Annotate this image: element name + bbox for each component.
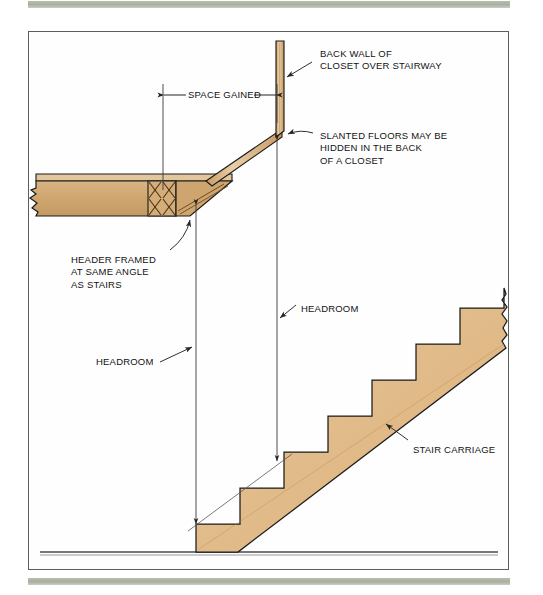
stair-carriage (196, 288, 507, 552)
label-slanted-floors: SLANTED FLOORS MAY BE HIDDEN IN THE BACK… (320, 130, 447, 167)
label-stair-carriage: STAIR CARRIAGE (413, 444, 495, 456)
slanted-closet-floor (206, 129, 283, 186)
leader-back-wall (287, 62, 312, 77)
leader-headroom-upper (280, 305, 296, 318)
diagram-artwork (0, 0, 543, 595)
leader-slanted-floors (288, 131, 313, 134)
leader-header-framed (170, 220, 190, 250)
label-header-framed: HEADER FRAMED AT SAME ANGLE AS STAIRS (71, 254, 156, 291)
label-space-gained: SPACE GAINED (188, 89, 261, 101)
label-headroom-lower: HEADROOM (96, 356, 154, 368)
ground-line (40, 552, 498, 555)
leader-headroom-lower (160, 347, 192, 362)
label-headroom-upper: HEADROOM (301, 303, 359, 315)
upper-floor-assembly (30, 174, 232, 216)
label-back-wall: BACK WALL OF CLOSET OVER STAIRWAY (320, 48, 442, 73)
diagram-canvas: BACK WALL OF CLOSET OVER STAIRWAY SLANTE… (0, 0, 543, 595)
